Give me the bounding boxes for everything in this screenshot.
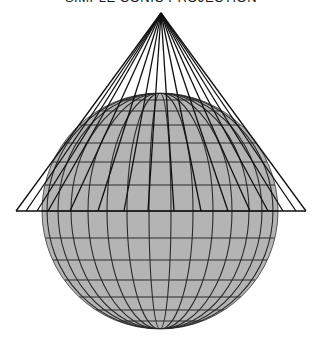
conic-projection-diagram	[0, 0, 322, 346]
